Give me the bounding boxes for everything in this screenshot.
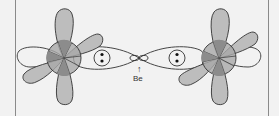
electron-pair-left xyxy=(94,50,110,66)
right-atom-orbitals xyxy=(179,9,261,105)
orbital-overlap-diagram xyxy=(0,0,279,116)
left-atom-orbitals xyxy=(17,9,103,105)
be-arrow: ↑ xyxy=(137,64,142,74)
be-label: Be xyxy=(133,74,143,83)
electron-pair-right xyxy=(169,50,185,66)
